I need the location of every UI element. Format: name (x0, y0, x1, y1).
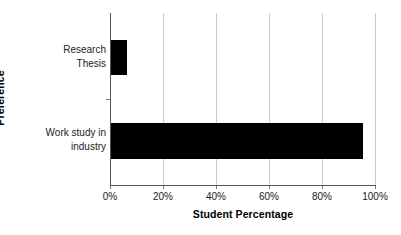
x-axis-tick-labels: 0% 20% 40% 60% 80% 100% (110, 190, 376, 204)
gridline (216, 13, 217, 185)
category-label-research-thesis: Research Thesis (24, 43, 106, 70)
x-axis-tick-label: 100% (352, 190, 398, 203)
x-axis-tick-label: 40% (193, 190, 239, 203)
gridline (163, 13, 164, 185)
gridline (322, 13, 323, 185)
category-label-line: Work study in (24, 126, 106, 140)
bar-research-thesis (111, 40, 127, 75)
category-label-work-study-in-industry: Work study in industry (24, 126, 106, 153)
y-axis-line (110, 13, 111, 186)
category-label-line: industry (24, 140, 106, 154)
category-label-line: Thesis (24, 57, 106, 71)
plot-area (110, 13, 375, 185)
y-axis-title: Preference (0, 12, 8, 184)
x-axis-title: Student Percentage (110, 208, 376, 220)
x-axis-line (110, 185, 376, 186)
x-axis-tick-label: 80% (299, 190, 345, 203)
category-axis-labels: Research Thesis Work study in industry (24, 13, 106, 185)
gridline (269, 13, 270, 185)
x-axis-tick-label: 60% (246, 190, 292, 203)
category-label-line: Research (24, 43, 106, 57)
bar-work-study-in-industry (111, 123, 363, 159)
x-axis-tick-label: 0% (87, 190, 133, 203)
gridline (375, 13, 376, 185)
bar-chart: Preference Research Thesis Work study in… (0, 0, 401, 235)
x-axis-tick-label: 20% (140, 190, 186, 203)
